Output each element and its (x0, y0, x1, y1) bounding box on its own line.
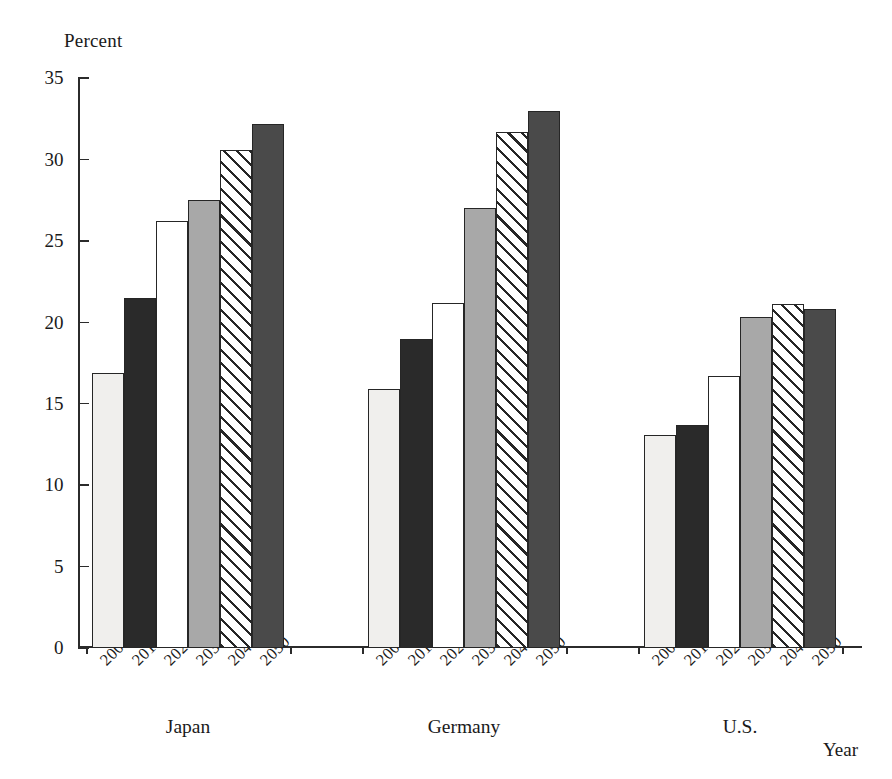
group-label: U.S. (723, 716, 758, 738)
bar (496, 132, 528, 648)
y-axis-title: Percent (64, 30, 122, 52)
bar (676, 425, 708, 648)
y-tick: 10 (78, 484, 89, 486)
bar (220, 150, 252, 648)
bar (368, 389, 400, 648)
y-tick-label: 15 (45, 393, 64, 415)
x-group-tick (638, 647, 640, 654)
y-tick-label: 0 (54, 637, 64, 659)
y-tick-label: 35 (45, 67, 64, 89)
x-group-tick (86, 647, 88, 654)
y-tick: 20 (78, 322, 89, 324)
y-tick-label: 5 (54, 556, 64, 578)
bar (708, 376, 740, 648)
y-tick: 15 (78, 403, 89, 405)
group-label: Germany (428, 716, 501, 738)
y-tick-label: 25 (45, 230, 64, 252)
bar-chart: Percent 05101520253035 20002010202020302… (0, 0, 892, 779)
bar (804, 309, 836, 648)
group-label: Japan (166, 716, 210, 738)
x-group-tick (362, 647, 364, 654)
y-tick: 25 (78, 240, 89, 242)
bar (92, 373, 124, 648)
y-tick: 30 (78, 159, 89, 161)
y-tick-label: 30 (45, 149, 64, 171)
bar (528, 111, 560, 648)
bar (464, 208, 496, 648)
bar (156, 221, 188, 648)
bar (432, 303, 464, 648)
bar (252, 124, 284, 648)
bar (188, 200, 220, 648)
y-tick: 5 (78, 566, 89, 568)
bar (400, 339, 432, 648)
plot-area: 05101520253035 (78, 78, 862, 648)
y-tick-label: 10 (45, 474, 64, 496)
y-tick: 35 (78, 77, 89, 79)
y-tick-label: 20 (45, 312, 64, 334)
x-axis-title: Year (823, 739, 858, 761)
bar (740, 317, 772, 648)
bar (644, 435, 676, 648)
bar (772, 304, 804, 648)
bar (124, 298, 156, 648)
y-axis-line (78, 78, 80, 648)
